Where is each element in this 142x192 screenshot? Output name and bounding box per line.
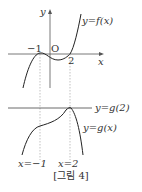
f-curve-label: y=f(x) <box>81 15 113 26</box>
origin-label: O <box>51 43 59 54</box>
labels-layer: y x O −1 2 y=f(x) y=g(2) y=g(x) x=−1 x=2 <box>0 0 142 192</box>
y-axis-label: y <box>39 6 46 17</box>
tick-label-neg1: −1 <box>27 43 42 54</box>
g2-line-label: y=g(2) <box>94 102 130 113</box>
tick-label-2: 2 <box>68 55 74 66</box>
figure-caption: [그림 4] <box>0 167 142 182</box>
x-axis-label: x <box>98 56 104 67</box>
g-curve-label: y=g(x) <box>82 122 117 133</box>
